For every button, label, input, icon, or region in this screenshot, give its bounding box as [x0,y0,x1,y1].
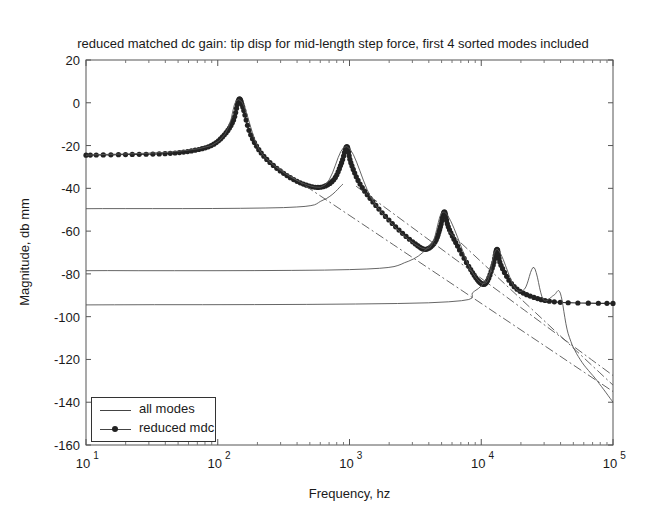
marker-dot-icon [112,426,118,432]
x-tick-label: 10 [76,456,90,471]
x-tick-label: 10 [471,456,485,471]
y-tick-label: -40 [61,181,80,196]
x-tick-label: 10 [603,456,617,471]
series-mode-2-contribution [86,184,343,209]
x-axis-label: Frequency, hz [86,486,613,501]
series-mode-2-asymptote [356,186,613,375]
y-tick-label: -140 [54,395,80,410]
legend-label: reduced mdc [139,420,214,435]
series-mode-3-asymptote [448,231,613,385]
y-tick-label: 20 [66,53,80,68]
axes-frame [86,60,613,445]
legend-item-all-modes: all modes [92,401,215,419]
x-tick-label: 10 [339,456,353,471]
legend-label: all modes [139,401,195,416]
legend: all modes reduced mdc [91,397,216,442]
svg-text:2: 2 [225,450,231,461]
svg-text:1: 1 [93,450,99,461]
y-tick-label: 0 [73,96,80,111]
series-mode-1-asymptote [277,167,613,392]
y-tick-label: -160 [54,438,80,453]
series-layer [83,96,615,402]
series-mode-3-contribution [86,240,435,271]
svg-text:4: 4 [488,450,494,461]
y-tick-label: -120 [54,352,80,367]
axis-ticks [86,60,613,445]
y-tick-label: -60 [61,224,80,239]
series-reduced-mdc [86,99,613,303]
series-all-modes [86,100,613,403]
thin-line-swatch-icon [100,410,131,411]
y-axis-label: Magnitude, db mm [17,198,32,306]
svg-text:5: 5 [620,450,626,461]
series-mode-4-contribution [86,270,492,305]
x-tick-label: 10 [208,456,222,471]
svg-text:3: 3 [357,450,363,461]
y-tick-label: -20 [61,139,80,154]
legend-item-reduced-mdc: reduced mdc [92,420,215,438]
y-tick-label: -100 [54,310,80,325]
y-tick-label: -80 [61,267,80,282]
